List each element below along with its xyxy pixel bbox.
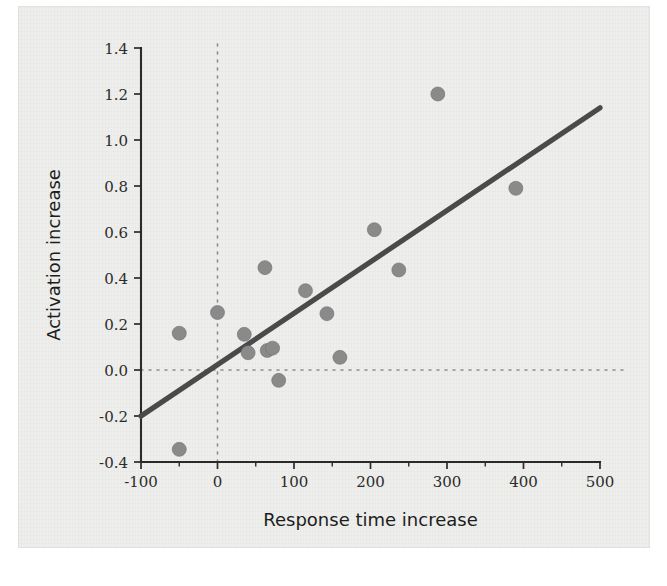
- data-point: [392, 263, 406, 277]
- data-point: [320, 307, 334, 321]
- y-tick-label: -0.2: [99, 408, 128, 426]
- x-tick-labels: -1000100200300400500: [124, 473, 614, 491]
- y-tick-label: 1.0: [104, 132, 128, 150]
- y-tick-label: 0.0: [104, 362, 128, 380]
- data-point: [172, 326, 186, 340]
- data-points: [172, 87, 523, 456]
- data-point: [258, 261, 272, 275]
- data-point: [241, 346, 255, 360]
- x-tick-label: 200: [356, 473, 385, 491]
- data-point: [367, 223, 381, 237]
- x-tick-label: 100: [280, 473, 309, 491]
- y-tick-label: 1.2: [104, 86, 128, 104]
- regression-fit-line: [141, 108, 600, 416]
- data-point: [509, 181, 523, 195]
- x-tick-label: 400: [509, 473, 538, 491]
- data-point: [172, 442, 186, 456]
- y-tick-label: -0.4: [99, 454, 128, 472]
- regression-line: [141, 108, 600, 416]
- axes: [141, 48, 600, 462]
- data-point: [272, 373, 286, 387]
- data-point: [431, 87, 445, 101]
- data-point: [211, 306, 225, 320]
- y-axis-title: Activation increase: [43, 169, 64, 341]
- y-tick-label: 0.8: [104, 178, 128, 196]
- x-tick-label: 300: [433, 473, 462, 491]
- y-tick-label: 0.2: [104, 316, 128, 334]
- x-tick-label: 0: [213, 473, 223, 491]
- scatter-plot: -1000100200300400500 -0.4-0.20.00.20.40.…: [18, 6, 650, 548]
- x-axis-title: Response time increase: [263, 509, 477, 530]
- y-tick-labels: -0.4-0.20.00.20.40.60.81.01.21.4: [99, 40, 128, 472]
- figure-panel: -1000100200300400500 -0.4-0.20.00.20.40.…: [18, 6, 650, 548]
- data-point: [298, 284, 312, 298]
- x-tick-label: -100: [124, 473, 158, 491]
- y-tick-label: 0.6: [104, 224, 128, 242]
- tick-marks: [134, 48, 600, 469]
- data-point: [266, 341, 280, 355]
- data-point: [237, 327, 251, 341]
- x-tick-label: 500: [586, 473, 615, 491]
- data-point: [333, 350, 347, 364]
- y-tick-label: 1.4: [104, 40, 128, 58]
- scanned-page: -1000100200300400500 -0.4-0.20.00.20.40.…: [0, 0, 667, 586]
- y-tick-label: 0.4: [104, 270, 128, 288]
